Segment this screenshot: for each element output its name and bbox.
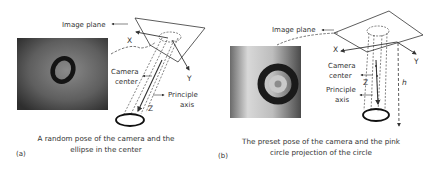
label-image-plane: Image plane	[272, 26, 316, 34]
photo-random-pose	[17, 38, 108, 110]
caption-a-line1: A random pose of the camera and the	[37, 134, 175, 143]
panel-a: Image plane X Y Camera center Principle …	[16, 18, 205, 158]
circle-target	[275, 81, 282, 88]
label-principle-axis-2: axis	[180, 101, 194, 109]
photo-link	[277, 33, 338, 45]
x-axis-arrow	[136, 32, 168, 38]
label-z-axis: Z	[148, 104, 153, 113]
label-x-axis: X	[333, 45, 338, 54]
label-camera-center-2: center	[115, 78, 138, 86]
label-principle-axis-1: Principle	[168, 91, 198, 99]
caption-a-line2: ellipse in the center	[70, 145, 142, 154]
height-line	[398, 43, 399, 126]
image-plane	[334, 11, 423, 52]
panel-tag-b: (b)	[218, 152, 228, 160]
bottom-circle	[363, 109, 389, 121]
photo-preset-pose	[230, 46, 301, 118]
label-z-axis: Z	[363, 78, 368, 87]
label-principle-axis-1: Principle	[326, 86, 356, 94]
label-camera-center-2: center	[329, 72, 352, 80]
label-camera-center-1: Camera	[111, 68, 138, 76]
label-y-axis: Y	[186, 74, 192, 83]
y-axis-arrow	[172, 40, 189, 70]
panel-b: Image plane X Y Camera center Z Principl…	[218, 11, 423, 160]
figure: Image plane X Y Camera center Principle …	[0, 0, 439, 171]
bottom-ellipse	[116, 114, 144, 126]
x-axis-arrow	[341, 42, 397, 51]
label-y-axis: Y	[413, 57, 419, 66]
label-camera-center-1: Camera	[328, 62, 355, 70]
panel-tag-a: (a)	[16, 150, 26, 158]
label-image-plane: Image plane	[62, 21, 106, 29]
label-x-axis: X	[127, 36, 132, 45]
label-principle-axis-2: axis	[335, 96, 349, 104]
caption-b-line2: circle projection of the circle	[270, 148, 373, 157]
y-axis-arrow	[397, 42, 416, 54]
image-plane	[135, 18, 205, 62]
label-height: h	[402, 78, 407, 87]
caption-b-line1: The preset pose of the camera and the pi…	[241, 137, 401, 146]
